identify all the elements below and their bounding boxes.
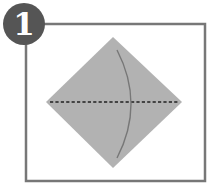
step-badge: 1 (3, 3, 45, 45)
step-number: 1 (13, 6, 35, 42)
origami-step-diagram: 1 (0, 0, 215, 190)
diagram-canvas: 1 (0, 0, 215, 190)
